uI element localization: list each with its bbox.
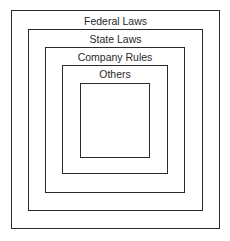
company-rules-label: Company Rules: [46, 51, 184, 63]
innermost-empty-box: [80, 83, 150, 158]
others-label: Others: [63, 68, 167, 80]
federal-laws-label: Federal Laws: [12, 15, 219, 27]
state-laws-label: State Laws: [29, 33, 202, 45]
